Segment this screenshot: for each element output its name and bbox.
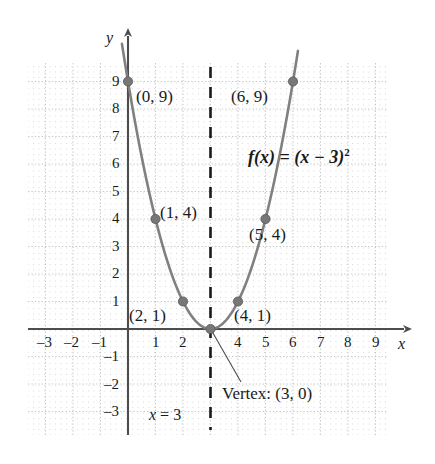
y-axis-label: y	[106, 30, 113, 46]
point-3-0[interactable]	[206, 324, 215, 333]
y-tick-5: 5	[112, 184, 120, 199]
background-dot-grid	[28, 63, 388, 435]
point-label-2-1: (2, 1)	[129, 307, 166, 324]
x-tick-9: 9	[372, 335, 380, 350]
y-tick-1: 1	[112, 294, 120, 309]
y-tick-2: 2	[112, 266, 120, 281]
function-equation-base: f(x) = (x − 3)	[248, 147, 344, 167]
graph-figure: y x 9 8 7 6 5 4 3 2 1 –1 –2 –3 –3 –2 –1 …	[0, 0, 435, 464]
x-tick-5: 5	[262, 335, 270, 350]
point-label-0-9: (0, 9)	[136, 88, 173, 105]
coordinate-plane	[0, 0, 435, 464]
point-label-6-9: (6, 9)	[231, 88, 268, 105]
x-axis-label: x	[398, 336, 405, 352]
point-2-1[interactable]	[178, 297, 187, 306]
y-tick-3: 3	[112, 239, 120, 254]
point-4-1[interactable]	[233, 297, 242, 306]
function-equation-label: f(x) = (x − 3)2	[248, 147, 350, 166]
axis-of-symmetry-value: = 3	[156, 406, 181, 423]
vertex-annotation-label: Vertex: (3, 0)	[222, 385, 312, 402]
axis-of-symmetry-label: x = 3	[149, 407, 181, 423]
y-tick-neg1: –1	[104, 349, 119, 364]
y-tick-neg3: –3	[104, 404, 119, 419]
x-tick-1: 1	[152, 335, 160, 350]
y-tick-6: 6	[112, 156, 120, 171]
x-tick-neg3: –3	[37, 335, 52, 350]
point-label-5-4: (5, 4)	[249, 226, 286, 243]
point-1-4[interactable]	[151, 214, 160, 223]
y-tick-9: 9	[112, 74, 120, 89]
point-label-4-1: (4, 1)	[234, 307, 271, 324]
x-tick-neg1: –1	[92, 335, 107, 350]
x-tick-4: 4	[234, 335, 242, 350]
y-tick-7: 7	[112, 129, 120, 144]
point-label-1-4: (1, 4)	[160, 204, 197, 221]
function-equation-exponent: 2	[344, 146, 350, 158]
point-5-4[interactable]	[261, 214, 270, 223]
point-6-9[interactable]	[288, 77, 297, 86]
point-0-9[interactable]	[123, 77, 132, 86]
x-tick-8: 8	[344, 335, 352, 350]
y-tick-4: 4	[112, 211, 120, 226]
y-tick-8: 8	[112, 101, 120, 116]
x-tick-neg2: –2	[64, 335, 79, 350]
y-tick-neg2: –2	[104, 377, 119, 392]
x-tick-6: 6	[289, 335, 297, 350]
x-tick-2: 2	[179, 335, 187, 350]
x-tick-7: 7	[317, 335, 325, 350]
